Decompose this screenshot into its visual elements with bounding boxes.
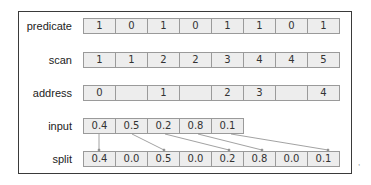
arrow-head xyxy=(163,149,165,151)
scatter-arrows xyxy=(0,0,371,185)
arrow-head xyxy=(261,149,263,151)
arrow-head xyxy=(327,149,329,151)
arrow-line xyxy=(231,134,328,150)
arrow-head xyxy=(228,149,230,151)
arrow-line xyxy=(132,134,164,150)
arrow-line xyxy=(198,134,262,150)
arrow-line xyxy=(165,134,229,150)
arrow-head xyxy=(98,149,100,151)
stray-mark: , xyxy=(358,158,360,167)
